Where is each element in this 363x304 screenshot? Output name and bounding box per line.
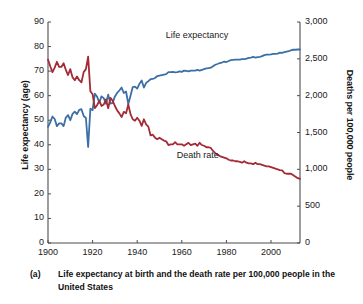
y-tick-label-right: 2,500 <box>305 53 345 63</box>
y-tick-label-right: 2,000 <box>305 90 345 100</box>
y-tick-label-right: 0 <box>305 237 345 247</box>
y-tick-label-left: 10 <box>6 212 44 222</box>
y-tick-label-right: 1,500 <box>305 127 345 137</box>
x-tick-label: 2000 <box>251 247 291 257</box>
caption-marker: (a) <box>44 268 58 281</box>
y-tick-label-left: 70 <box>6 65 44 75</box>
x-tick-label: 1920 <box>73 247 113 257</box>
y-tick-label-left: 40 <box>6 139 44 149</box>
life-expectancy-label: Life expectancy <box>166 30 229 40</box>
y-tick-label-right: 1,000 <box>305 163 345 173</box>
caption-text: Life expectancy at birth and the death r… <box>58 269 335 292</box>
y-tick-label-left: 20 <box>6 188 44 198</box>
y-tick-label-left: 90 <box>6 16 44 26</box>
figure-caption: (a)Life expectancy at birth and the deat… <box>44 268 354 293</box>
chart-plot-area: Life expectancy (age) Deaths per 100,000… <box>0 0 363 264</box>
y-tick-label-right: 500 <box>305 200 345 210</box>
y-tick-label-left: 0 <box>6 237 44 247</box>
x-tick-label: 1960 <box>162 247 202 257</box>
y-tick-label-left: 80 <box>6 41 44 51</box>
x-tick-label: 1940 <box>117 247 157 257</box>
y-tick-label-right: 3,000 <box>305 16 345 26</box>
x-tick-label: 1900 <box>28 247 68 257</box>
death-rate-label: Death rate <box>177 150 219 160</box>
y-tick-label-left: 50 <box>6 114 44 124</box>
series-paths <box>48 50 300 179</box>
x-tick-label: 1980 <box>206 247 246 257</box>
y-tick-label-left: 60 <box>6 90 44 100</box>
y-tick-label-left: 30 <box>6 163 44 173</box>
series-line-life-expectancy <box>48 50 300 147</box>
figure-panel: Life expectancy (age) Deaths per 100,000… <box>0 0 363 304</box>
